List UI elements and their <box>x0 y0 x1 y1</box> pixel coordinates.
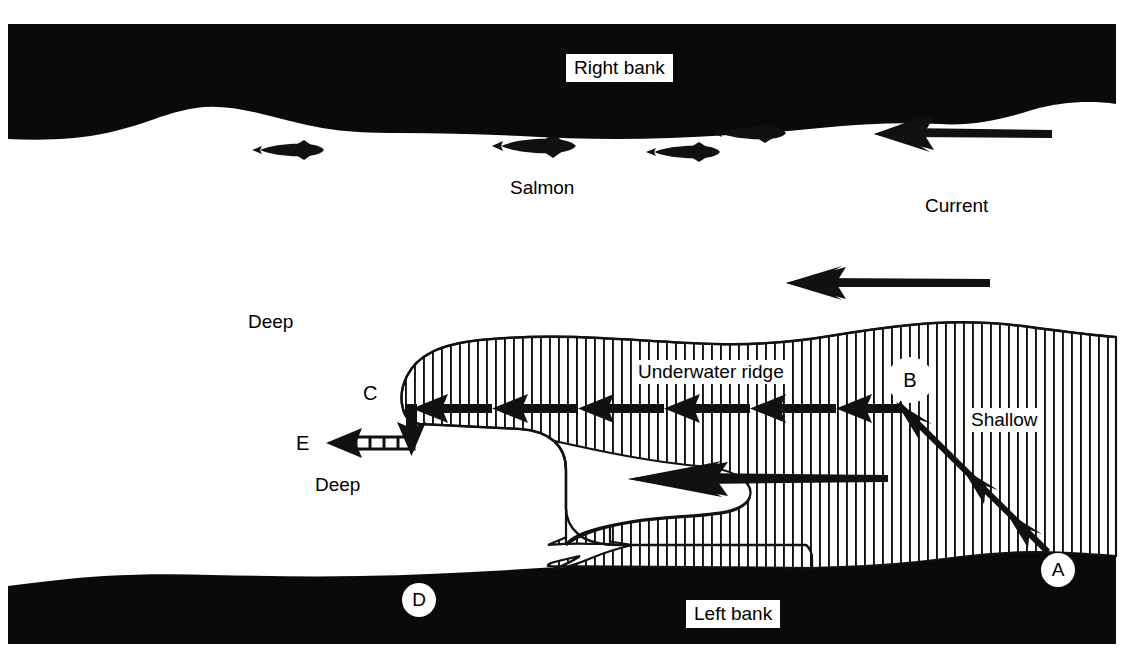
deep-lower-label: Deep <box>315 475 360 494</box>
marker-c: C <box>363 382 377 405</box>
marker-d: D <box>402 583 436 617</box>
current-label: Current <box>925 196 988 215</box>
left-bank-label: Left bank <box>686 600 780 628</box>
marker-b: B <box>887 357 933 403</box>
diagram-canvas: Right bank Salmon Current Deep Underwate… <box>0 0 1124 667</box>
underwater-ridge-label: Underwater ridge <box>634 360 788 384</box>
deep-upper-label: Deep <box>248 312 293 331</box>
shallow-label: Shallow <box>965 408 1044 432</box>
right-bank-label: Right bank <box>566 54 673 82</box>
salmon-label: Salmon <box>510 178 574 197</box>
river-diagram-svg <box>0 0 1124 667</box>
marker-e: E <box>296 432 309 455</box>
marker-a: A <box>1041 553 1075 587</box>
